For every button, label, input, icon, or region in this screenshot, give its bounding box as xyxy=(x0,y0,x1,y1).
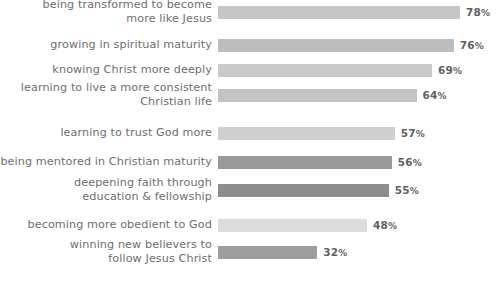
bar-category-label: learning to live a more consistent Chris… xyxy=(0,81,218,109)
bar xyxy=(218,184,389,197)
bar-category-label: learning to trust God more xyxy=(0,126,218,140)
bar-value-label: 55% xyxy=(395,184,419,196)
bar xyxy=(218,156,392,169)
bar-value-label: 32% xyxy=(323,246,347,258)
bar-category-label: deepening faith through education & fell… xyxy=(0,176,218,204)
bar xyxy=(218,89,417,102)
chart-row: learning to live a more consistent Chris… xyxy=(0,75,497,115)
bar-category-label: being mentored in Christian maturity xyxy=(0,155,218,169)
bar-value-label: 56% xyxy=(398,156,422,168)
bar-track: 32% xyxy=(218,232,497,272)
bar xyxy=(218,127,395,140)
bar-value-label: 48% xyxy=(373,219,397,231)
bar xyxy=(218,246,317,259)
bar-category-label: winning new believers to follow Jesus Ch… xyxy=(0,238,218,266)
bar-value-label: 64% xyxy=(423,89,447,101)
horizontal-bar-chart: being transformed to become more like Je… xyxy=(0,0,497,281)
bar-category-label: becoming more obedient to God xyxy=(0,218,218,232)
bar-track: 55% xyxy=(218,170,497,210)
chart-row: winning new believers to follow Jesus Ch… xyxy=(0,232,497,272)
chart-row: deepening faith through education & fell… xyxy=(0,170,497,210)
bar-category-label: being transformed to become more like Je… xyxy=(0,0,218,26)
bar-track: 64% xyxy=(218,75,497,115)
bar xyxy=(218,6,460,19)
bar-value-label: 57% xyxy=(401,127,425,139)
bar xyxy=(218,219,367,232)
bar-value-label: 78% xyxy=(466,6,490,18)
